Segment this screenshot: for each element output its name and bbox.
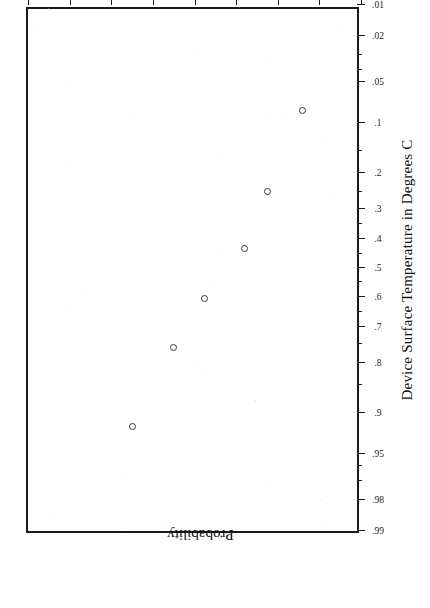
scan-speck bbox=[203, 219, 204, 220]
probability-tick bbox=[357, 267, 365, 268]
temperature-tick bbox=[236, 0, 237, 5]
probability-tick bbox=[357, 530, 365, 531]
y-axis-title: Probability bbox=[121, 526, 281, 543]
probability-tick-label: .2 bbox=[367, 168, 389, 178]
probability-minor-tick bbox=[357, 223, 362, 224]
scan-speck bbox=[320, 499, 321, 500]
probability-tick bbox=[357, 81, 365, 82]
probability-tick bbox=[357, 4, 365, 5]
scan-speck bbox=[95, 236, 96, 237]
probability-tick-label: .7 bbox=[367, 322, 389, 332]
probability-minor-tick bbox=[357, 465, 362, 466]
probability-minor-tick bbox=[357, 384, 362, 385]
scan-speck bbox=[205, 370, 206, 371]
scan-speck bbox=[287, 118, 288, 119]
scan-speck bbox=[128, 216, 129, 217]
scan-speck bbox=[239, 7, 240, 8]
scan-speck bbox=[166, 228, 167, 229]
scan-speck bbox=[339, 26, 340, 27]
scan-speck bbox=[298, 44, 299, 45]
scan-speck bbox=[355, 294, 356, 295]
scan-speck bbox=[132, 11, 133, 12]
scan-speck bbox=[290, 323, 291, 324]
rotated-plot-container: 165.167.169.171.173.175.177.179.181. .01… bbox=[0, 0, 430, 608]
probability-minor-tick bbox=[357, 191, 362, 192]
temperature-tick bbox=[28, 0, 29, 5]
scan-speck bbox=[213, 281, 214, 282]
temperature-tick bbox=[153, 0, 154, 5]
scan-speck bbox=[227, 446, 228, 447]
scan-speck bbox=[326, 503, 327, 504]
scan-speck bbox=[81, 216, 82, 217]
scan-speck bbox=[149, 122, 150, 123]
scan-speck bbox=[71, 261, 72, 262]
scan-speck bbox=[268, 57, 269, 58]
scan-speck bbox=[245, 223, 246, 224]
temperature-tick bbox=[319, 0, 320, 5]
scan-speck bbox=[92, 408, 93, 409]
data-point bbox=[264, 188, 271, 195]
scan-speck bbox=[338, 40, 339, 41]
scan-speck bbox=[313, 237, 314, 238]
scan-speck bbox=[32, 28, 33, 29]
scan-speck bbox=[40, 242, 41, 243]
scan-speck bbox=[303, 302, 304, 303]
scan-speck bbox=[270, 484, 271, 485]
scan-speck bbox=[89, 296, 90, 297]
scan-speck bbox=[43, 87, 44, 88]
scan-speck bbox=[301, 339, 302, 340]
scan-speck bbox=[182, 63, 183, 64]
probability-tick-label: .3 bbox=[367, 204, 389, 214]
scan-speck bbox=[354, 260, 355, 261]
probability-tick bbox=[357, 453, 365, 454]
probability-tick bbox=[357, 208, 365, 209]
plot-frame: 165.167.169.171.173.175.177.179.181. .01… bbox=[26, 7, 359, 533]
scan-speck bbox=[48, 513, 49, 514]
scan-speck bbox=[360, 77, 361, 78]
scan-speck bbox=[357, 122, 358, 123]
probability-tick-label: .05 bbox=[367, 77, 389, 87]
probability-tick bbox=[357, 238, 365, 239]
scan-speck bbox=[244, 22, 245, 23]
probability-tick-label: .01 bbox=[367, 0, 389, 10]
scan-speck bbox=[198, 363, 199, 364]
probability-tick-label: .99 bbox=[367, 526, 389, 536]
probability-tick bbox=[357, 296, 365, 297]
probability-minor-tick bbox=[357, 343, 362, 344]
scan-speck bbox=[159, 478, 160, 479]
scan-speck bbox=[65, 421, 66, 422]
probability-tick-label: .4 bbox=[367, 234, 389, 244]
scan-speck bbox=[86, 294, 87, 295]
scan-speck bbox=[57, 140, 58, 141]
scan-speck bbox=[325, 423, 326, 424]
temperature-tick bbox=[195, 0, 196, 5]
scan-speck bbox=[287, 33, 288, 34]
probability-tick-label: .6 bbox=[367, 292, 389, 302]
scan-speck bbox=[234, 497, 235, 498]
data-point bbox=[241, 245, 248, 252]
scan-speck bbox=[278, 113, 279, 114]
scan-speck bbox=[306, 224, 307, 225]
scan-speck bbox=[174, 167, 175, 168]
scan-speck bbox=[156, 183, 157, 184]
probability-tick bbox=[357, 362, 365, 363]
scan-speck bbox=[229, 83, 230, 84]
scan-speck bbox=[84, 525, 85, 526]
probability-tick bbox=[357, 412, 365, 413]
scan-speck bbox=[111, 40, 112, 41]
scan-speck bbox=[105, 205, 106, 206]
scan-speck bbox=[221, 251, 222, 252]
temperature-tick bbox=[70, 0, 71, 5]
scan-speck bbox=[42, 315, 43, 316]
scan-speck bbox=[64, 81, 65, 82]
scan-speck bbox=[327, 447, 328, 448]
scan-speck bbox=[192, 467, 193, 468]
scan-speck bbox=[252, 11, 253, 12]
scan-speck bbox=[200, 475, 201, 476]
scan-speck bbox=[122, 474, 123, 475]
scan-speck bbox=[320, 523, 321, 524]
x-axis-title: Device Surface Temperature in Degrees C bbox=[399, 7, 416, 533]
scan-speck bbox=[194, 48, 195, 49]
chart-figure: 165.167.169.171.173.175.177.179.181. .01… bbox=[0, 0, 430, 608]
scan-speck bbox=[52, 514, 53, 515]
